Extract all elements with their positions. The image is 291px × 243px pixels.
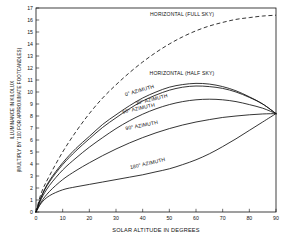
y-tick-label: 7	[30, 125, 33, 131]
curve-series-3	[36, 99, 276, 212]
curve-annotation-1: HORIZONTAL (HALF SKY)	[150, 70, 215, 76]
curve-annotation-6: 180° AZIMUTH	[129, 156, 166, 170]
x-tick-label: 90	[273, 215, 279, 221]
y-axis-label-line2: (MULTIPLY BY '100 FOR APPROXIMATE FOOTCA…	[17, 47, 22, 172]
x-tick-label: 50	[166, 215, 172, 221]
x-axis-label: SOLAR ALTITUDE IN DEGREES	[112, 227, 199, 233]
x-tick-label: 70	[220, 215, 226, 221]
y-tick-label: 14	[27, 41, 33, 47]
x-tick-label: 80	[246, 215, 252, 221]
x-tick-label: 60	[193, 215, 199, 221]
curve-annotation-2: 0° AZIMUTH	[124, 83, 155, 97]
y-tick-label: 16	[27, 17, 33, 23]
y-tick-label: 2	[30, 185, 33, 191]
y-tick-label: 10	[27, 89, 33, 95]
y-tick-label: 0	[30, 209, 33, 215]
y-tick-label: 9	[30, 101, 33, 107]
curve-annotation-0: HORIZONTAL (FULL SKY)	[150, 11, 214, 17]
y-tick-label: 12	[27, 65, 33, 71]
x-tick-label: 30	[113, 215, 119, 221]
y-tick-label: 13	[27, 53, 33, 59]
y-tick-label: 3	[30, 173, 33, 179]
x-tick-label: 10	[60, 215, 66, 221]
y-tick-label: 5	[30, 149, 33, 155]
x-tick-label: 40	[140, 215, 146, 221]
chart-figure: 0123456789101112131415161701020304050607…	[0, 0, 291, 243]
y-tick-label: 15	[27, 29, 33, 35]
x-tick-label: 20	[86, 215, 92, 221]
plot-frame	[36, 8, 276, 212]
y-tick-label: 17	[27, 5, 33, 11]
y-tick-label: 11	[28, 77, 33, 83]
illuminance-vs-solar-altitude-chart: 0123456789101112131415161701020304050607…	[0, 0, 291, 243]
x-tick-label: 0	[35, 215, 38, 221]
curve-series-0	[36, 15, 276, 212]
y-tick-label: 8	[30, 113, 33, 119]
y-axis-label-line1: ILLUMINANCE IN KILOLUX	[10, 81, 15, 139]
y-tick-label: 4	[30, 161, 33, 167]
curve-series-2	[36, 86, 276, 212]
y-tick-label: 1	[30, 197, 33, 203]
y-tick-label: 6	[30, 137, 33, 143]
